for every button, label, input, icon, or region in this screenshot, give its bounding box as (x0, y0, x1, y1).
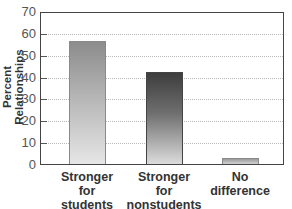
y-axis-title: Percent Relationships (1, 27, 15, 147)
tick-60 (41, 34, 47, 35)
y-tick-30: 30 (6, 92, 36, 105)
x-label-no-difference: No difference (200, 170, 280, 198)
x-label-stronger-for-nonstudents: Stronger for nonstudents (124, 170, 204, 209)
y-tick-70: 70 (6, 5, 36, 18)
y-tick-50: 50 (6, 49, 36, 62)
y-tick-20: 20 (6, 114, 36, 127)
bar-stronger-for-nonstudents (146, 72, 183, 164)
x-label-stronger-for-students: Stronger for students (47, 170, 127, 209)
tick-30 (41, 99, 47, 100)
bar-no-difference (222, 158, 259, 164)
gridline-60 (41, 34, 283, 35)
bar-stronger-for-students (69, 41, 106, 164)
y-tick-40: 40 (6, 71, 36, 84)
y-tick-60: 60 (6, 27, 36, 40)
tick-50 (41, 56, 47, 57)
y-tick-10: 10 (6, 136, 36, 149)
tick-20 (41, 121, 47, 122)
y-tick-0: 0 (6, 158, 36, 171)
plot-area (40, 12, 284, 165)
tick-40 (41, 78, 47, 79)
tick-10 (41, 143, 47, 144)
